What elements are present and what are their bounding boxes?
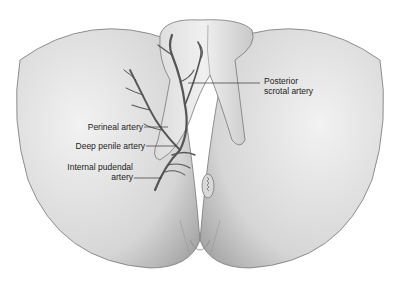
label-line: Posterior bbox=[264, 76, 313, 86]
label-deep-penile-artery: Deep penile artery bbox=[76, 141, 145, 151]
label-line: Internal pudendal bbox=[67, 162, 133, 172]
label-line: scrotal artery bbox=[264, 86, 313, 96]
anatomy-illustration bbox=[0, 0, 400, 282]
label-internal-pudendal-artery: Internal pudendal artery bbox=[67, 162, 133, 182]
label-perineal-artery: Perineal artery bbox=[88, 122, 143, 132]
label-posterior-scrotal-artery: Posterior scrotal artery bbox=[264, 76, 313, 96]
anus bbox=[202, 174, 214, 198]
label-line: artery bbox=[67, 172, 133, 182]
